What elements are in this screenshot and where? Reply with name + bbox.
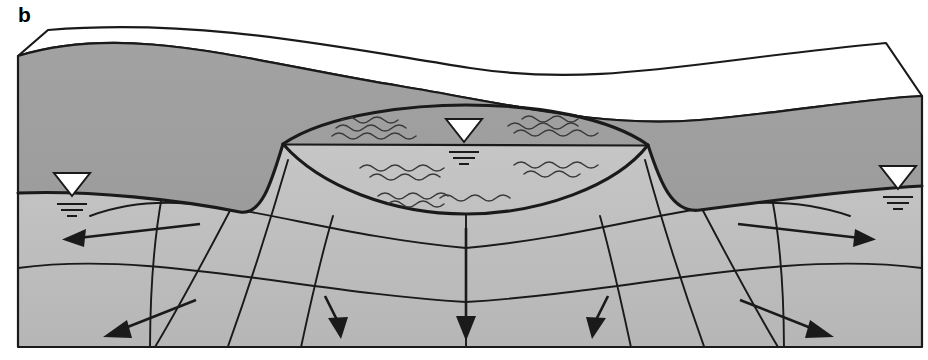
figure-panel: b [0,0,928,360]
lake-surface-line [283,145,648,146]
block-diagram-svg [0,0,928,360]
